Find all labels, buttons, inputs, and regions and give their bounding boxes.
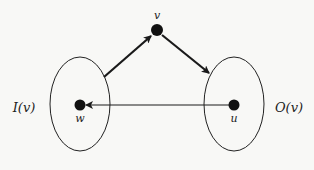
in-set-label: I(v): [13, 101, 36, 114]
edge-in-to-v: [104, 36, 151, 77]
diagram-canvas: v w u I(v) O(v): [0, 0, 314, 170]
node-v: [151, 24, 163, 36]
diagram-graphics: [0, 0, 314, 170]
out-set-label: O(v): [275, 101, 303, 114]
node-v-label: v: [154, 10, 160, 21]
node-u-label: u: [230, 113, 237, 124]
edge-v-to-out: [162, 35, 209, 73]
node-w-label: w: [75, 113, 84, 124]
node-u: [229, 100, 240, 111]
node-w: [75, 100, 86, 111]
